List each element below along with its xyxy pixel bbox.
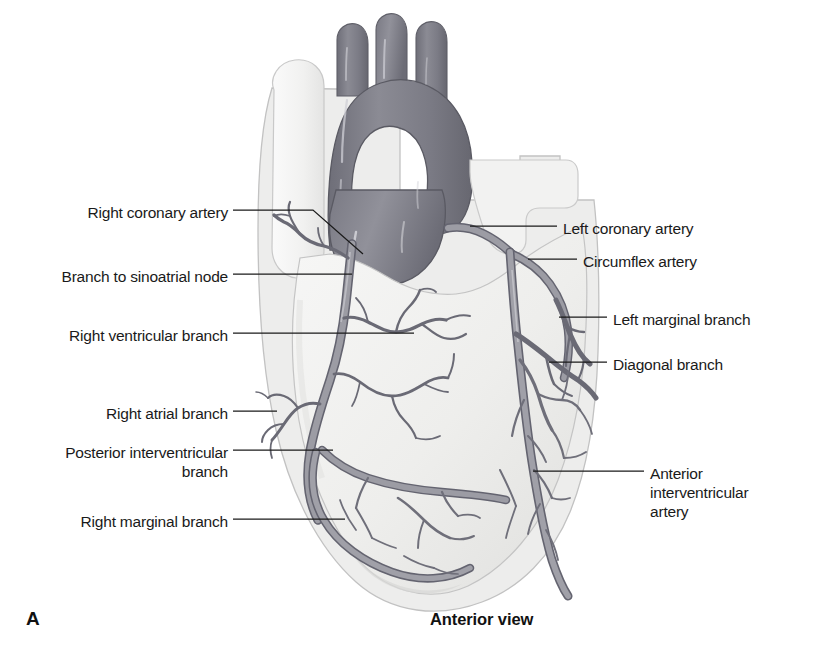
- view-caption: Anterior view: [430, 610, 533, 629]
- label-left-coronary-artery: Left coronary artery: [563, 219, 693, 238]
- label-diagonal-branch: Diagonal branch: [613, 355, 723, 374]
- label-right-ventricular-branch: Right ventricular branch: [28, 326, 228, 345]
- label-posterior-interventricular-branch: Posterior interventricular branch: [18, 443, 228, 481]
- heart-anatomy-figure: Right coronary artery Branch to sinoatri…: [0, 0, 813, 653]
- label-right-atrial-branch: Right atrial branch: [58, 404, 228, 423]
- label-left-marginal-branch: Left marginal branch: [613, 310, 750, 329]
- label-right-coronary-artery: Right coronary artery: [28, 203, 228, 222]
- label-circumflex-artery: Circumflex artery: [583, 252, 697, 271]
- brachiocephalic-trunk: [337, 24, 368, 96]
- label-anterior-interventricular-artery: Anterior interventricular artery: [650, 464, 748, 521]
- label-branch-to-sinoatrial-node: Branch to sinoatrial node: [18, 267, 228, 286]
- label-right-marginal-branch: Right marginal branch: [38, 512, 228, 531]
- figure-letter: A: [26, 608, 40, 630]
